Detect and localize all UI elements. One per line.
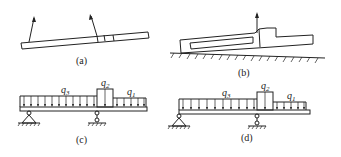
load-label-q1: q1 [287, 90, 296, 103]
slanted-bar [21, 32, 149, 49]
load-q1-outline [273, 102, 306, 110]
divider-line [259, 29, 260, 47]
panel-a: (a) [21, 14, 149, 67]
roller-bottom-icon [95, 118, 99, 122]
arrow-head-icon [89, 14, 93, 20]
roller-top-icon [255, 114, 259, 118]
pin-triangle [22, 115, 36, 123]
engineering-figure: (a) (b) [0, 0, 341, 157]
load-label-q2: q2 [101, 77, 110, 90]
panel-b: (b) [170, 12, 325, 79]
roller-bottom-icon [255, 121, 259, 125]
load-label-q1: q1 [127, 86, 136, 99]
pin-support-icon [27, 111, 31, 115]
arrow-head-icon [255, 12, 259, 18]
caption-a: (a) [76, 55, 87, 67]
panel-d: q3 q2 q1 (d) [168, 80, 310, 144]
component-body [180, 28, 313, 53]
load-label-q3: q3 [61, 84, 70, 97]
load-label-q2: q2 [261, 80, 270, 93]
joint-line [97, 36, 98, 42]
load-q1-outline [113, 98, 146, 107]
slot [190, 37, 253, 49]
caption-d: (d) [241, 132, 253, 144]
load-label-q3: q3 [222, 87, 231, 100]
pin-support-icon [177, 114, 181, 118]
arrow-head-icon [32, 16, 36, 22]
beam [20, 107, 147, 111]
pin-triangle [172, 118, 186, 126]
caption-b: (b) [238, 67, 250, 79]
beam [179, 110, 310, 114]
roller-top-icon [95, 111, 99, 115]
joint-line [113, 35, 114, 41]
load-arrows-d [183, 92, 304, 109]
caption-c: (c) [76, 134, 87, 146]
ground-hatch [171, 53, 318, 63]
panel-c: q3 q2 q1 (c) [18, 77, 147, 146]
